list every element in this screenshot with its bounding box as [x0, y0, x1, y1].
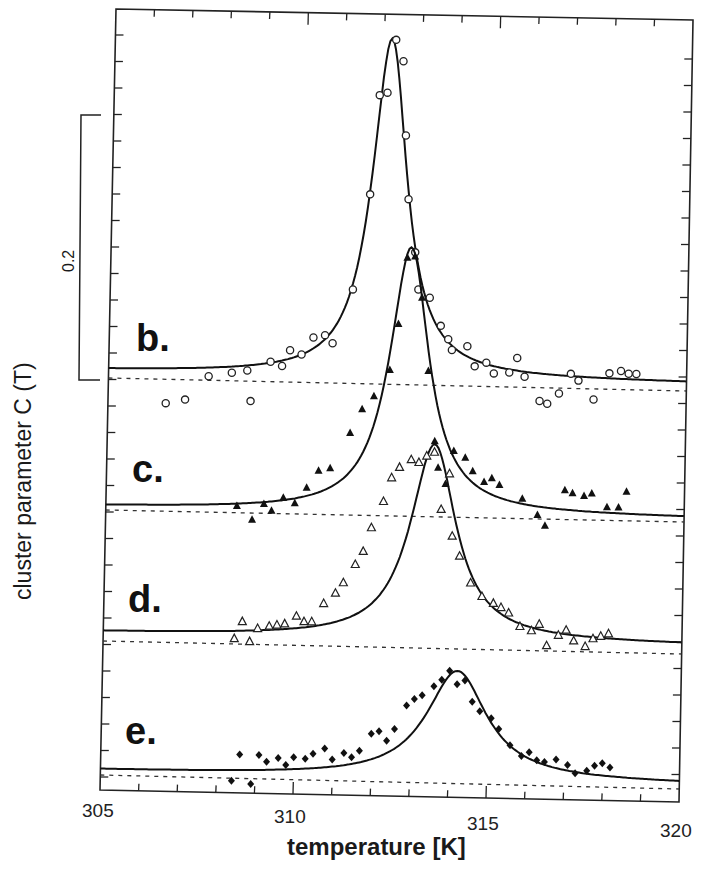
series-e	[100, 667, 679, 789]
scale-bar	[79, 115, 101, 380]
series-d	[103, 444, 682, 654]
curve-label-b: b.	[136, 317, 170, 360]
x-tick-305: 305	[82, 800, 114, 822]
y-axis-label: cluster parameter C (T)	[10, 362, 37, 600]
data-series	[100, 36, 686, 789]
curve-label-e: e.	[125, 710, 157, 753]
curve-label-c: c.	[132, 448, 164, 491]
scale-bar-label: 0.2	[60, 250, 78, 272]
axis-ticks	[100, 10, 692, 801]
x-tick-315: 315	[467, 813, 499, 835]
chart-plot-area	[0, 0, 709, 877]
curve-label-d: d.	[128, 578, 162, 621]
plot-frame	[100, 9, 693, 802]
x-tick-320: 320	[660, 820, 692, 842]
series-c	[106, 247, 684, 528]
x-axis-label: temperature [K]	[287, 833, 466, 861]
series-b	[108, 36, 686, 407]
x-tick-310: 310	[274, 806, 306, 828]
